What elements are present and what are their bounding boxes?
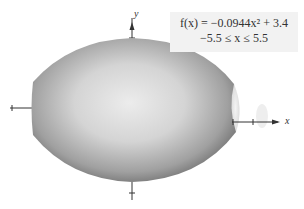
domain-definition: −5.5 ≤ x ≤ 5.5 (170, 31, 298, 46)
function-definition: f(x) = −0.0944x² + 3.4 (170, 16, 298, 31)
solid-of-revolution-figure: y x f(x) = −0.0944x² + 3.4 −5.5 ≤ x ≤ 5.… (0, 0, 304, 209)
x-axis-label: x (285, 115, 289, 126)
solid-body (32, 38, 237, 182)
formula-box: f(x) = −0.0944x² + 3.4 −5.5 ≤ x ≤ 5.5 (170, 12, 298, 52)
y-axis-label: y (134, 8, 138, 19)
